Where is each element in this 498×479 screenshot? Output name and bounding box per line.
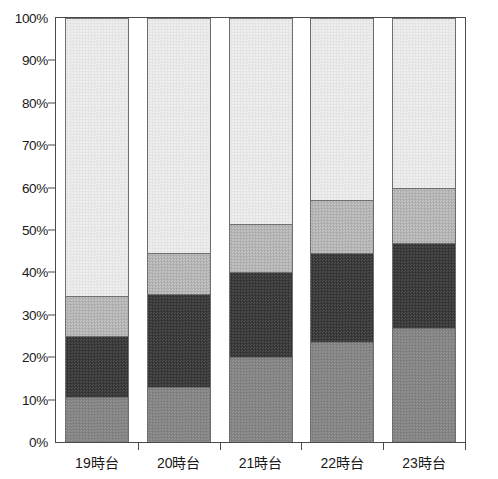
bar-5[interactable] — [392, 18, 456, 442]
y-axis: 100%90%80%70%60%50%40%30%20%10%0% — [0, 18, 48, 442]
bar-segment-series-2[interactable] — [229, 272, 293, 357]
bar-segment-series-3[interactable] — [392, 188, 456, 243]
y-tick-mark — [48, 102, 56, 103]
x-tick-label: 20時台 — [157, 452, 201, 472]
bar-segment-series-3[interactable] — [147, 253, 211, 293]
y-tick-label: 40% — [22, 265, 48, 280]
bar-segment-series-1[interactable] — [392, 328, 456, 442]
bar-segment-series-4[interactable] — [392, 18, 456, 188]
y-tick-label: 10% — [22, 392, 48, 407]
y-tick-mark — [48, 60, 56, 61]
bar-segment-series-1[interactable] — [229, 357, 293, 442]
y-tick-label: 0% — [29, 435, 48, 450]
bar-3[interactable] — [229, 18, 293, 442]
bar-4[interactable] — [310, 18, 374, 442]
y-tick-mark — [48, 230, 56, 231]
x-tick-mark — [301, 443, 302, 450]
bar-segment-series-1[interactable] — [310, 342, 374, 442]
x-tick-label: 22時台 — [321, 452, 365, 472]
x-tick-label: 21時台 — [239, 452, 283, 472]
bar-segment-series-4[interactable] — [229, 18, 293, 224]
y-tick-mark — [48, 314, 56, 315]
y-tick-label: 100% — [15, 11, 48, 26]
x-tick-mark — [465, 443, 466, 450]
x-tick-mark — [383, 443, 384, 450]
y-tick-label: 90% — [22, 53, 48, 68]
x-tick-label: 23時台 — [402, 452, 446, 472]
bar-segment-series-1[interactable] — [147, 387, 211, 442]
x-tick-mark — [220, 443, 221, 450]
bar-segment-series-2[interactable] — [147, 294, 211, 387]
y-tick-label: 50% — [22, 223, 48, 238]
x-tick-mark — [138, 443, 139, 450]
y-tick-mark — [48, 187, 56, 188]
bar-segment-series-4[interactable] — [310, 18, 374, 200]
bar-segment-series-1[interactable] — [65, 397, 129, 442]
bar-segment-series-2[interactable] — [65, 336, 129, 397]
bar-2[interactable] — [147, 18, 211, 442]
plot-area — [56, 18, 465, 442]
y-tick-mark — [48, 272, 56, 273]
y-tick-mark — [48, 357, 56, 358]
x-tick-label: 19時台 — [75, 452, 119, 472]
bar-segment-series-4[interactable] — [65, 18, 129, 296]
x-axis: 19時台20時台21時台22時台23時台 — [56, 452, 465, 476]
bar-segment-series-4[interactable] — [147, 18, 211, 253]
bar-segment-series-3[interactable] — [65, 296, 129, 336]
y-tick-label: 60% — [22, 180, 48, 195]
bar-segment-series-3[interactable] — [310, 200, 374, 253]
bar-1[interactable] — [65, 18, 129, 442]
y-tick-label: 20% — [22, 350, 48, 365]
y-tick-label: 30% — [22, 307, 48, 322]
stacked-bar-chart: 100%90%80%70%60%50%40%30%20%10%0% 19時台20… — [0, 0, 498, 479]
bar-segment-series-2[interactable] — [310, 253, 374, 342]
bar-segment-series-2[interactable] — [392, 243, 456, 328]
y-tick-label: 70% — [22, 138, 48, 153]
y-tick-mark — [48, 399, 56, 400]
y-tick-mark — [48, 145, 56, 146]
bar-segment-series-3[interactable] — [229, 224, 293, 273]
y-tick-label: 80% — [22, 95, 48, 110]
